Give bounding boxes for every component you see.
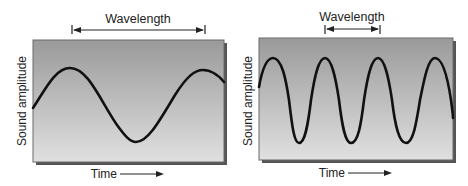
y-axis-label: Sound amplitude: [15, 56, 29, 146]
waveform-diagram-low-frequency: Wavelength Sound amplitude Time: [0, 0, 234, 186]
x-axis-label: Time: [319, 166, 346, 180]
wavelength-label: Wavelength: [105, 12, 171, 26]
wavelength-arrow: [325, 25, 380, 34]
time-arrow-icon: [348, 170, 392, 176]
y-axis-label: Sound amplitude: [241, 56, 255, 146]
waveform-svg-left: Wavelength Sound amplitude Time: [0, 0, 234, 186]
wavelength-label: Wavelength: [319, 10, 385, 24]
plot-panel: [33, 40, 224, 162]
waveform-diagram-high-frequency: Wavelength Sound amplitude Time: [234, 0, 468, 186]
waveform-svg-right: Wavelength Sound amplitude Time: [234, 0, 468, 186]
time-arrow-icon: [120, 171, 164, 177]
x-axis-label: Time: [91, 167, 118, 181]
wavelength-arrow: [72, 25, 205, 34]
